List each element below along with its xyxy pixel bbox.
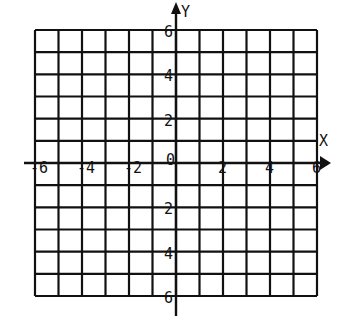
- x-tick-label: 4: [265, 159, 274, 177]
- coordinate-plane: X Y -6-4-20246642246: [0, 0, 344, 329]
- x-tick-label: 6: [312, 159, 321, 177]
- y-axis-arrow-icon: [171, 2, 181, 14]
- y-tick-label: 4: [164, 245, 173, 263]
- x-tick-label: -4: [77, 159, 95, 177]
- y-tick-label: 2: [164, 200, 173, 218]
- x-tick-label: -2: [124, 159, 142, 177]
- x-tick-label: 2: [218, 159, 227, 177]
- y-tick-label: 4: [164, 67, 173, 85]
- x-axis-arrow-icon: [320, 156, 331, 170]
- x-axis-label: X: [319, 132, 328, 150]
- y-tick-label: 2: [164, 112, 173, 130]
- y-axis-label: Y: [181, 3, 190, 21]
- x-axis: X: [24, 132, 331, 170]
- x-tick-label: -6: [30, 159, 48, 177]
- y-tick-label: 6: [164, 289, 173, 307]
- y-tick-label: 6: [164, 23, 173, 41]
- x-tick-label: 0: [166, 151, 175, 169]
